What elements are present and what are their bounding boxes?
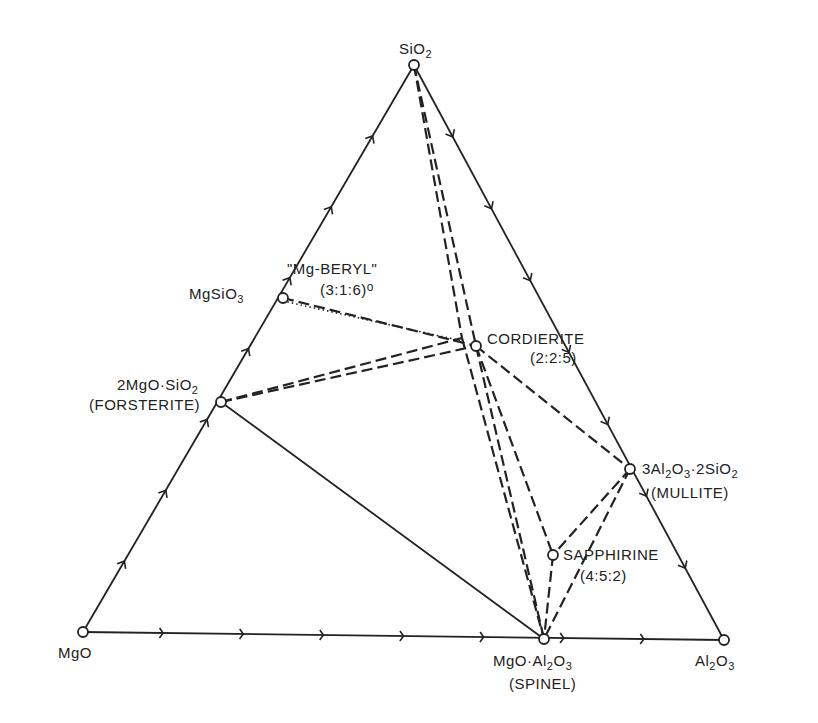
node-sapphirine-icon — [548, 550, 558, 560]
tie-line-forsterite-mgberyl — [221, 338, 462, 402]
tie-line-mgberyl-spinel — [462, 338, 544, 639]
label-sio2: SiO2 — [399, 40, 432, 58]
label-spinel: (SPINEL) — [509, 675, 576, 693]
label-mgberyl-ratio: (3:1:6)o — [320, 278, 374, 299]
tie-line-forsterite-cordierite — [221, 346, 476, 402]
tie-line-forsterite-spinel — [221, 402, 544, 639]
tie-line-mullite-sapphirine — [553, 469, 630, 555]
ternary-diagram-canvas — [0, 0, 818, 723]
label-sapphirine-ratio: (4:5:2) — [580, 567, 627, 585]
label-cordierite-ratio: (2:2:5) — [530, 349, 577, 367]
label-mgsio3: MgSiO3 — [189, 285, 244, 303]
node-mgo-icon — [78, 627, 88, 637]
node-mgsio3-icon — [278, 293, 288, 303]
label-forsterite: (FORSTERITE) — [89, 396, 200, 414]
mgberyl-marker: o — [367, 280, 374, 294]
label-spinel-formula: MgO·Al2O3 — [493, 652, 572, 670]
node-spinel-icon — [539, 634, 549, 644]
tie-line-mgsio3-cordierite — [283, 298, 476, 346]
label-mullite-formula: 3Al2O3·2SiO2 — [642, 460, 738, 478]
label-al2o3: Al2O3 — [695, 652, 735, 670]
node-al2o3-icon — [719, 635, 729, 645]
tie-line-sio2-mgberyl — [414, 65, 462, 338]
tie-line-sapphirine-spinel — [544, 555, 553, 639]
tie-line-sio2-cordierite — [414, 65, 476, 346]
node-mullite-icon — [625, 464, 635, 474]
node-sio2-icon — [409, 60, 419, 70]
label-mullite: (MULLITE) — [651, 484, 729, 502]
tie-line-mgsio3-mgberyl — [283, 301, 462, 341]
label-forsterite-formula: 2MgO·SiO2 — [117, 376, 198, 394]
node-cordierite-icon — [471, 341, 481, 351]
label-cordierite: CORDIERITE — [487, 330, 585, 348]
label-sapphirine: SAPPHIRINE — [563, 546, 659, 564]
tie-line-cordierite-spinel — [476, 346, 544, 639]
label-mgberyl: "Mg-BERYL" — [287, 260, 377, 278]
label-mgo: MgO — [58, 644, 92, 662]
node-forsterite-icon — [216, 397, 226, 407]
